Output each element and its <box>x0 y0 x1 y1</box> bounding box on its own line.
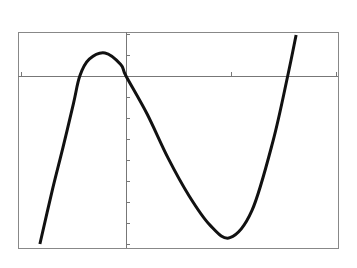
graph-plot <box>0 0 357 268</box>
cubic-curve <box>40 35 296 244</box>
